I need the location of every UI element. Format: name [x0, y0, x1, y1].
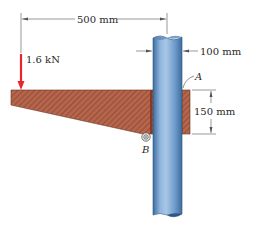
pipe-body: [153, 36, 182, 217]
dimension-150mm-label: 150 mm: [194, 106, 236, 117]
dimension-500mm-label: 500 mm: [77, 14, 119, 25]
bracket-diagram: 500 mm 100 mm 150 mm A B 1.6 kN: [0, 0, 255, 233]
dimension-100mm-label: 100 mm: [200, 46, 242, 57]
roller-b: [142, 133, 150, 141]
bracket-arm: [11, 90, 153, 134]
point-b-label: B: [141, 144, 149, 155]
bracket-right-block: [182, 90, 190, 134]
point-a-leader: [183, 76, 194, 88]
point-a-label: A: [194, 71, 202, 82]
load-label: 1.6 kN: [26, 54, 60, 65]
load-arrow-icon: [18, 54, 25, 90]
pipe: [153, 36, 182, 217]
